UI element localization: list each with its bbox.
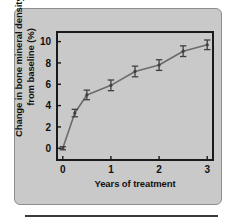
svg-text:3: 3 (204, 164, 210, 175)
svg-text:2: 2 (156, 164, 162, 175)
figure-root: 0246810 0123 Change in bone mineral dens… (0, 0, 238, 223)
svg-text:1: 1 (108, 164, 114, 175)
y-axis-title: Change in bone mineral density from base… (13, 0, 43, 137)
svg-text:8: 8 (45, 58, 51, 69)
y-axis-title-line1: Change in bone mineral density (13, 0, 25, 137)
svg-text:2: 2 (45, 122, 51, 133)
y-axis-title-line2: from baseline (%) (25, 0, 37, 137)
svg-text:4: 4 (45, 100, 51, 111)
data-series-line (63, 45, 207, 148)
svg-text:0: 0 (45, 143, 51, 154)
x-axis-ticks (63, 156, 207, 160)
x-axis-tick-labels: 0123 (60, 164, 210, 175)
svg-text:0: 0 (60, 164, 66, 175)
y-axis-ticks (57, 42, 61, 149)
data-error-bars (60, 40, 211, 150)
bottom-divider-rule (25, 215, 218, 217)
svg-text:6: 6 (45, 79, 51, 90)
x-axis-title: Years of treatment (56, 178, 214, 189)
